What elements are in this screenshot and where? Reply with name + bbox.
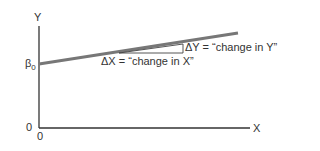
x-axis-label: X	[253, 123, 260, 134]
beta-subscript: 0	[31, 63, 35, 72]
delta-y-annotation: ΔY = “change in Y”	[185, 42, 277, 53]
origin-x-label: 0	[37, 131, 43, 142]
y-axis-label: Y	[34, 12, 41, 23]
intercept-label: β0	[25, 58, 36, 72]
delta-x-annotation: ΔX = “change in X”	[101, 56, 194, 67]
origin-y-label: 0	[26, 122, 32, 133]
